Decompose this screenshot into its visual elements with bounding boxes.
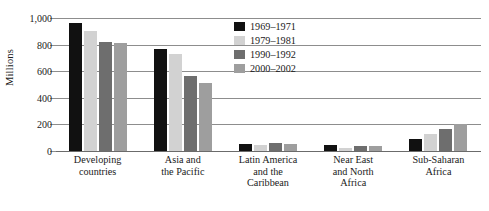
bar (454, 124, 467, 151)
bar (84, 31, 97, 151)
bar (184, 76, 197, 151)
category-label: Latin Americaand theCaribbean (225, 154, 310, 189)
bar (439, 129, 452, 151)
bar-group (396, 18, 481, 151)
bar (154, 49, 167, 151)
legend-label: 1969–1971 (250, 21, 296, 32)
bar-group (311, 18, 396, 151)
bar (354, 146, 367, 151)
y-tick-label-400: 400 (37, 92, 52, 103)
legend-item: 1969–1971 (234, 19, 296, 33)
category-label-line: Sub-Saharan (398, 154, 479, 166)
bar (269, 143, 282, 151)
category-label: Near Eastand NorthAfrica (311, 154, 396, 189)
category-label-line: the Pacific (142, 166, 223, 178)
legend-swatch-icon (234, 22, 245, 31)
category-label-line: Africa (398, 166, 479, 178)
bar (324, 145, 337, 151)
gridline-0: 0 (55, 151, 481, 152)
bar (239, 144, 252, 151)
legend: 1969–19711979–19811990–19922000–2002 (234, 19, 296, 75)
category-label-line: countries (57, 166, 138, 178)
bar (199, 83, 212, 151)
category-label-line: Latin America (227, 154, 308, 166)
legend-swatch-icon (234, 36, 245, 45)
category-label: Sub-SaharanAfrica (396, 154, 481, 189)
bar-group (55, 18, 140, 151)
legend-swatch-icon (234, 50, 245, 59)
y-tick-label-600: 600 (37, 66, 52, 77)
category-label-line: and the (227, 166, 308, 178)
legend-item: 1979–1981 (234, 33, 296, 47)
y-tick-label-200: 200 (37, 119, 52, 130)
category-label-line: Asia and (142, 154, 223, 166)
category-labels: DevelopingcountriesAsia andthe PacificLa… (55, 154, 481, 189)
bar (254, 145, 267, 151)
legend-label: 2000–2002 (250, 63, 296, 74)
legend-item: 2000–2002 (234, 61, 296, 75)
y-axis-title: Millions (4, 38, 15, 98)
bar (409, 139, 422, 151)
category-label-line: Caribbean (227, 177, 308, 189)
legend-item: 1990–1992 (234, 47, 296, 61)
category-label-line: and North (313, 166, 394, 178)
y-tick-label-0: 0 (47, 146, 52, 157)
category-label: Asia andthe Pacific (140, 154, 225, 189)
bar (339, 148, 352, 151)
legend-label: 1990–1992 (250, 49, 296, 60)
bar (169, 54, 182, 151)
bar (114, 43, 127, 151)
bar-group (140, 18, 225, 151)
bar (369, 146, 382, 151)
legend-swatch-icon (234, 64, 245, 73)
bar (284, 144, 297, 151)
y-tick-label-1000: 1,000 (30, 13, 53, 24)
category-label-line: Africa (313, 177, 394, 189)
bar (99, 42, 112, 151)
category-label: Developingcountries (55, 154, 140, 189)
y-tick-label-800: 800 (37, 39, 52, 50)
category-label-line: Developing (57, 154, 138, 166)
bar-chart: Millions 02004006008001,000 Developingco… (0, 0, 489, 211)
bar (424, 134, 437, 151)
category-label-line: Near East (313, 154, 394, 166)
figure-caption (3, 203, 473, 211)
legend-label: 1979–1981 (250, 35, 296, 46)
bar (69, 23, 82, 151)
